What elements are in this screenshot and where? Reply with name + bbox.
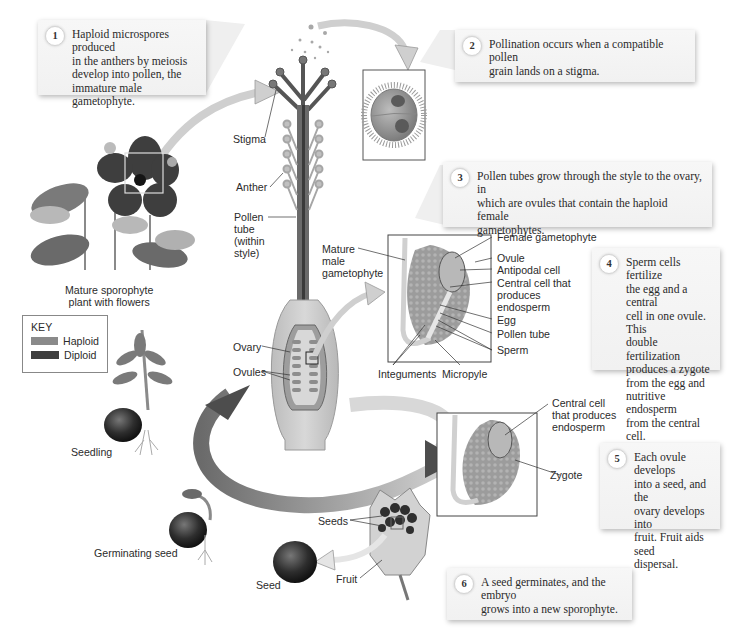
step-2-number-badge: 2: [462, 36, 482, 56]
key-label-diploid: Diploid: [64, 349, 96, 361]
label-sperm: Sperm: [497, 344, 528, 356]
label-antipodal-cell: Antipodal cell: [497, 264, 560, 276]
step-4-text: Sperm cells fertilize the egg and a cent…: [626, 256, 710, 444]
key-label-haploid: Haploid: [63, 335, 99, 347]
seed: [273, 541, 317, 583]
ovary: [271, 300, 338, 450]
pollen-grains-cloud: [291, 25, 329, 60]
label-central-cell-2: Central cell that produces endosperm: [552, 397, 616, 433]
label-germinating-seed: Germinating seed: [94, 547, 178, 559]
step-1-callout: 1 Haploid microspores produced in the an…: [38, 20, 206, 95]
step-6-number-badge: 6: [454, 574, 474, 594]
label-seedling: Seedling: [71, 446, 112, 458]
label-ovules: Ovules: [233, 366, 266, 378]
step-5-callout: 5 Each ovule develops into a seed, and t…: [600, 443, 720, 529]
label-egg: Egg: [497, 314, 516, 326]
step-3-number-badge: 3: [450, 168, 470, 188]
step-1-text: Haploid microspores produced in the anth…: [72, 28, 196, 108]
cycle-lower-arc: [350, 403, 450, 450]
key-title: KEY: [31, 321, 99, 333]
label-anther: Anther: [236, 181, 267, 193]
label-zygote: Zygote: [550, 469, 582, 481]
label-pollen-tube-style: Pollen tube (within style): [234, 211, 265, 259]
step-2-callout: 2 Pollination occurs when a compatible p…: [455, 30, 695, 82]
step-3-callout: 3 Pollen tubes grow through the style to…: [443, 162, 712, 227]
label-mature-sporophyte: Mature sporophyte plant with flowers: [65, 284, 153, 308]
step-3-text: Pollen tubes grow through the style to t…: [477, 170, 702, 237]
step-4-number-badge: 4: [599, 254, 619, 274]
step-4-callout: 4 Sperm cells fertilize the egg and a ce…: [592, 248, 720, 370]
step-2-text: Pollination occurs when a compatible pol…: [489, 38, 685, 78]
step-1-number-badge: 1: [45, 26, 65, 46]
label-micropyle: Micropyle: [442, 368, 487, 380]
callout-1-pointer: [205, 20, 245, 95]
label-seeds: Seeds: [318, 515, 348, 527]
pollen-grain-inset: [363, 70, 425, 160]
label-central-cell: Central cell that produces endosperm: [497, 277, 571, 313]
callout-2-pointer: [420, 30, 455, 70]
label-mature-male-gametophyte: Mature male gametophyte: [322, 243, 383, 279]
ovule-inset-zygote: [437, 413, 537, 516]
step-6-callout: 6 A seed germinates, and the embryo grow…: [447, 568, 632, 620]
key-item-haploid: Haploid: [31, 335, 99, 347]
step-5-text: Each ovule develops into a seed, and the…: [634, 451, 710, 572]
seedling: [104, 330, 174, 455]
haploid-swatch: [31, 337, 58, 345]
step-6-text: A seed germinates, and the embryo grows …: [481, 576, 622, 616]
label-fruit: Fruit: [336, 573, 357, 585]
label-pollen-tube: Pollen tube: [497, 328, 550, 340]
step-5-number-badge: 5: [607, 449, 627, 469]
label-stigma: Stigma: [233, 133, 266, 145]
label-ovary: Ovary: [233, 341, 261, 353]
key-item-diploid: Diploid: [31, 349, 99, 361]
label-integuments: Integuments: [378, 368, 436, 380]
pollen-arrow: [318, 23, 405, 50]
label-seed: Seed: [256, 579, 281, 591]
label-female-gametophyte: Female gametophyte: [497, 231, 597, 243]
label-ovule: Ovule: [497, 252, 525, 264]
diploid-swatch: [31, 351, 59, 359]
sporophyte-plant: [27, 136, 195, 272]
legend-key: KEY Haploid Diploid: [22, 315, 108, 373]
stigma-and-style: [269, 56, 336, 335]
callout-3-pointer: [415, 165, 445, 225]
life-cycle-diagram: 1 Haploid microspores produced in the an…: [0, 0, 739, 635]
